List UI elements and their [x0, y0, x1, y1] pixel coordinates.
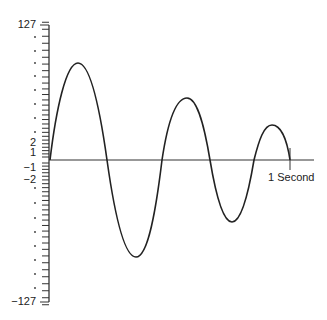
y-label-minus-127: −127 — [0, 296, 36, 307]
x-label-1-second: 1 Second — [268, 172, 314, 183]
waveform-chart: 127 2 1 −1 −2 −127 1 Second — [0, 0, 327, 320]
y-label-minus-2: −2 — [0, 174, 36, 185]
y-label-127: 127 — [0, 19, 36, 30]
y-axis-ticks — [40, 22, 49, 304]
y-label-minus-1: −1 — [0, 162, 36, 173]
y-label-1: 1 — [0, 147, 36, 158]
